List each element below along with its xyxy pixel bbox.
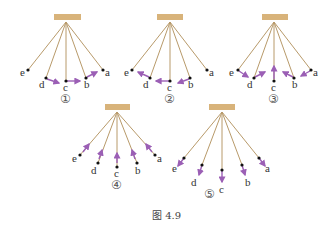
- label-a: a: [157, 152, 162, 164]
- figure-caption: 图 4.9: [152, 210, 181, 221]
- label-b: b: [245, 176, 251, 188]
- label-d: d: [247, 78, 253, 90]
- support-bar: [105, 104, 130, 110]
- label-c: c: [219, 183, 224, 195]
- label-a: a: [265, 162, 270, 174]
- arrows: [47, 72, 97, 83]
- panel-number: ②: [164, 92, 175, 106]
- label-a: a: [105, 66, 110, 78]
- panel-3: e d c b a ③: [229, 14, 318, 106]
- strings: [28, 22, 103, 81]
- label-b: b: [135, 164, 141, 176]
- panel-number: ③: [268, 92, 279, 106]
- label-e: e: [229, 66, 234, 78]
- strings: [132, 22, 207, 81]
- label-d: d: [91, 164, 97, 176]
- panel-5: e d c b a ⑤: [172, 104, 270, 201]
- support-bar: [262, 14, 288, 20]
- strings: [184, 112, 259, 170]
- label-b: b: [188, 78, 194, 90]
- panel-number: ①: [60, 92, 71, 106]
- label-d: d: [143, 78, 149, 90]
- panel-4: e d c b a ④: [72, 104, 162, 192]
- support-bar: [157, 14, 183, 20]
- panel-number: ④: [111, 178, 122, 192]
- label-e: e: [20, 66, 25, 78]
- panel-1: e d c b a ①: [20, 14, 110, 106]
- pendulum-figure: e d c b a ① e d c b a ②: [0, 0, 336, 235]
- label-e: e: [72, 152, 77, 164]
- panel-number: ⑤: [204, 187, 215, 201]
- label-d: d: [191, 176, 197, 188]
- label-e: e: [172, 162, 177, 174]
- label-d: d: [39, 78, 45, 90]
- panel-2: e d c b a ②: [124, 14, 214, 106]
- label-e: e: [124, 66, 129, 78]
- label-b: b: [292, 78, 298, 90]
- label-b: b: [84, 78, 90, 90]
- support-bar: [54, 14, 81, 20]
- support-bar: [209, 104, 235, 110]
- label-a: a: [209, 66, 214, 78]
- label-a: a: [313, 66, 318, 78]
